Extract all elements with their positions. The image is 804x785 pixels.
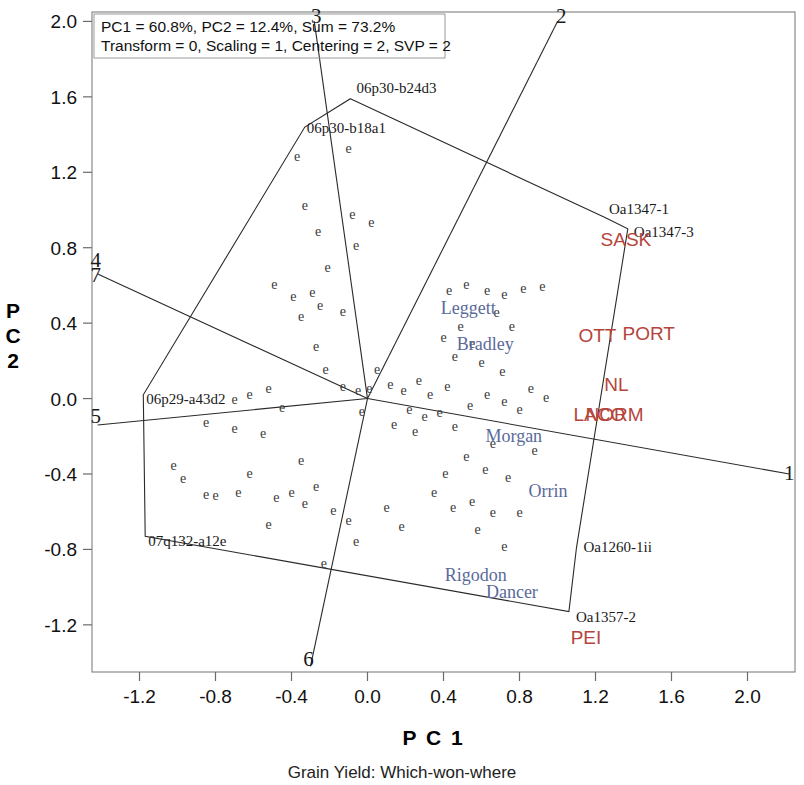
data-point: e bbox=[171, 458, 177, 473]
environment-label: SASK bbox=[601, 229, 652, 250]
data-point: e bbox=[309, 285, 315, 300]
data-point: e bbox=[399, 519, 405, 534]
data-point: e bbox=[235, 485, 241, 500]
data-point: e bbox=[421, 409, 427, 424]
data-point: e bbox=[516, 402, 522, 417]
data-point: e bbox=[290, 289, 296, 304]
data-point: e bbox=[349, 207, 355, 222]
data-point: e bbox=[427, 387, 433, 402]
data-point: e bbox=[359, 404, 365, 419]
data-point: e bbox=[442, 466, 448, 481]
data-point: e bbox=[374, 362, 380, 377]
data-point: e bbox=[313, 339, 319, 354]
data-point: e bbox=[516, 505, 522, 520]
data-point: e bbox=[323, 362, 329, 377]
data-point: e bbox=[345, 141, 351, 156]
sector-number: 2 bbox=[556, 4, 567, 28]
data-point: e bbox=[490, 505, 496, 520]
environment-label: NL bbox=[604, 374, 628, 395]
y-tick-label: -0.8 bbox=[44, 539, 77, 560]
data-point: e bbox=[324, 260, 330, 275]
genotype-label: Morgan bbox=[485, 426, 542, 446]
genotype-label: Leggett bbox=[441, 298, 496, 318]
genotype-label: Dancer bbox=[486, 582, 538, 602]
x-tick-label: 0.8 bbox=[506, 686, 532, 707]
data-point: e bbox=[231, 421, 237, 436]
vertex-label: Oa1357-2 bbox=[576, 609, 636, 625]
axis-titles: P C 1PC2 bbox=[5, 299, 464, 749]
data-point: e bbox=[231, 392, 237, 407]
data-point: e bbox=[539, 279, 545, 294]
data-point: e bbox=[368, 215, 374, 230]
data-point: e bbox=[437, 405, 443, 420]
sector-number: 6 bbox=[303, 647, 314, 671]
vertex-label: Oa1347-1 bbox=[609, 201, 669, 217]
x-axis-title: P C 1 bbox=[402, 726, 464, 749]
vertex-label: 06p29-a43d2 bbox=[146, 391, 225, 407]
data-point: e bbox=[203, 415, 209, 430]
genotype-label: Bradley bbox=[457, 334, 514, 354]
data-point: e bbox=[302, 496, 308, 511]
data-point: e bbox=[484, 387, 490, 402]
data-point: e bbox=[315, 224, 321, 239]
y-tick-label: 0.4 bbox=[51, 313, 78, 334]
data-point: e bbox=[247, 387, 253, 402]
data-point: e bbox=[482, 462, 488, 477]
data-point: e bbox=[446, 283, 452, 298]
data-point: e bbox=[212, 488, 218, 503]
data-point: e bbox=[499, 364, 505, 379]
data-point: e bbox=[247, 466, 253, 481]
data-point: e bbox=[440, 330, 446, 345]
data-point: e bbox=[203, 487, 209, 502]
vertex-genotype-labels: 06p30-b24d306p30-b18a1Oa1347-1Oa1347-306… bbox=[146, 80, 694, 625]
y-axis-title-char: C bbox=[5, 324, 22, 347]
data-point: e bbox=[431, 485, 437, 500]
data-point: e bbox=[266, 381, 272, 396]
data-point: e bbox=[444, 379, 450, 394]
y-tick-label: 1.6 bbox=[51, 87, 77, 108]
data-point: e bbox=[298, 453, 304, 468]
data-point: e bbox=[302, 198, 308, 213]
data-point: e bbox=[412, 424, 418, 439]
environment-label: OTT bbox=[578, 325, 616, 346]
sector-number: 7 bbox=[91, 263, 102, 287]
data-point: e bbox=[273, 490, 279, 505]
data-point: e bbox=[406, 402, 412, 417]
data-point: e bbox=[266, 517, 272, 532]
data-point: e bbox=[457, 319, 463, 334]
x-tick-label: 1.2 bbox=[582, 686, 608, 707]
pc-variance-text: PC1 = 60.8%, PC2 = 12.4%, Sum = 73.2% bbox=[101, 18, 395, 35]
data-point: e bbox=[452, 419, 458, 434]
axis-ticks bbox=[83, 21, 748, 681]
data-point: e bbox=[400, 383, 406, 398]
data-point: e bbox=[345, 513, 351, 528]
data-point: e bbox=[355, 383, 361, 398]
environment-label: PEI bbox=[571, 627, 602, 648]
data-point: e bbox=[387, 377, 393, 392]
data-point: e bbox=[505, 470, 511, 485]
sector-divider-ray-3 bbox=[314, 21, 367, 398]
x-tick-label: 2.0 bbox=[734, 686, 760, 707]
y-tick-label: 1.2 bbox=[51, 162, 77, 183]
x-tick-label: -0.8 bbox=[199, 686, 232, 707]
y-tick-label: -1.2 bbox=[44, 615, 77, 636]
data-point: e bbox=[528, 381, 534, 396]
data-point: e bbox=[463, 277, 469, 292]
y-tick-label: 2.0 bbox=[51, 11, 77, 32]
data-point: e bbox=[279, 400, 285, 415]
data-point: e bbox=[520, 281, 526, 296]
data-point: e bbox=[391, 417, 397, 432]
data-point: e bbox=[317, 298, 323, 313]
data-point: e bbox=[469, 494, 475, 509]
data-point: e bbox=[260, 426, 266, 441]
sector-number: 5 bbox=[91, 404, 102, 428]
caption: Grain Yield: Which-won-where bbox=[288, 763, 517, 782]
data-point: e bbox=[288, 485, 294, 500]
axis-tick-labels: -1.2-0.8-0.40.00.40.81.21.62.02.01.61.20… bbox=[44, 11, 760, 707]
x-tick-label: -1.2 bbox=[123, 686, 156, 707]
data-point: e bbox=[366, 381, 372, 396]
data-point: e bbox=[321, 556, 327, 571]
genotype-label: Orrin bbox=[529, 481, 568, 501]
data-point: e bbox=[313, 479, 319, 494]
data-point: e bbox=[501, 287, 507, 302]
